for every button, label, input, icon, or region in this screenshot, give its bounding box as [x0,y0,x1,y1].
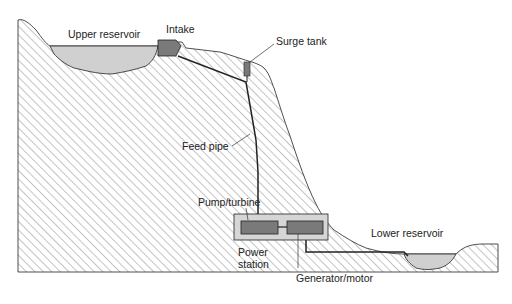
label-power-station-2: station [238,258,269,270]
label-intake: Intake [166,23,195,35]
label-pump-turbine: Pump/turbine [198,196,261,208]
label-surge-tank: Surge tank [276,35,328,47]
label-upper-reservoir: Upper reservoir [68,28,141,40]
label-lower-reservoir: Lower reservoir [371,227,444,239]
generator-motor-unit [287,221,323,234]
surge-tank [244,62,250,76]
pump-turbine-unit [241,221,278,234]
label-power-station-1: Power [238,246,268,258]
intake-structure [158,40,181,56]
label-generator-motor: Generator/motor [296,272,374,284]
pumped-storage-diagram: Upper reservoir Intake Surge tank Feed p… [0,0,512,304]
label-feed-pipe: Feed pipe [182,140,229,152]
